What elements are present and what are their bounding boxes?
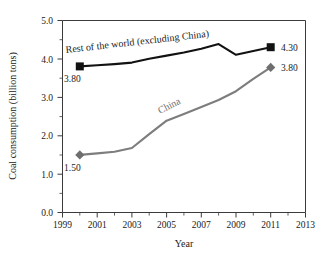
value-label-rest-of-world-start: 3.80 [64,74,81,84]
y-tick-label-4: 4.0 [41,55,53,65]
y-tick-label-5: 5.0 [41,16,53,26]
y-tick-label-3: 3.0 [41,93,53,103]
x-tick-label-2001: 2001 [88,220,107,230]
x-tick-label-2005: 2005 [157,220,176,230]
y-tick-label-1: 1.0 [41,170,53,180]
marker-rest-of-world-2011 [267,43,275,51]
x-tick-label-2007: 2007 [192,220,211,230]
coal-consumption-chart: 5.0 4.0 3.0 2.0 1.0 0.0 1999 [0,0,329,255]
x-tick-label-2003: 2003 [122,220,141,230]
x-tick-label-2013: 2013 [296,220,315,230]
value-label-rest-of-world-end: 4.30 [281,43,298,53]
x-axis-title: Year [175,238,194,249]
y-axis-title: Coal consumption (billion tons) [7,52,19,180]
x-tick-label-2011: 2011 [261,220,280,230]
value-label-china-start: 1.50 [64,163,81,173]
value-label-china-end: 3.80 [281,63,298,73]
y-tick-label-2: 2.0 [41,131,53,141]
marker-rest-of-world-2000 [76,62,84,70]
y-tick-label-0: 0.0 [41,208,53,218]
x-tick-label-2009: 2009 [227,220,246,230]
x-tick-label-1999: 1999 [53,220,72,230]
